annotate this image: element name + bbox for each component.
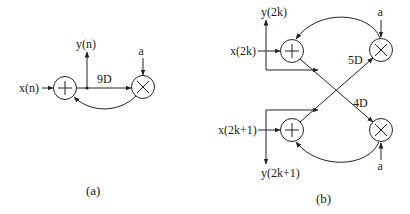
delay-label-9d: 9D (97, 72, 112, 86)
top-feedback-path (296, 17, 380, 39)
delay-label-4d: 4D (353, 96, 368, 110)
bottom-feedback-path (296, 142, 379, 162)
coefficient-label-top-a: a (378, 5, 384, 19)
output-label-y2k1: y(2k+1) (261, 166, 300, 180)
input-label-xn: x(n) (19, 81, 39, 95)
diagram-a: x(n) y(n) 9D a (a) (19, 37, 155, 198)
caption-a: (a) (86, 183, 100, 198)
output-label-yn: y(n) (76, 37, 96, 51)
feedback-path (74, 96, 136, 109)
coefficient-label-bottom-a: a (378, 159, 384, 173)
delay-label-5d: 5D (348, 53, 363, 67)
coefficient-label-a: a (139, 44, 145, 58)
output-label-y2k: y(2k) (261, 5, 287, 19)
diagram-canvas: x(n) y(n) 9D a (a) x (0, 0, 410, 214)
input-label-x2k: x(2k) (230, 44, 256, 58)
diagram-b: x(2k) y(2k) a x(2k+1) y(2k+1) (218, 5, 393, 206)
caption-b: (b) (316, 191, 331, 206)
multiplier-node (132, 76, 155, 99)
input-label-x2k1: x(2k+1) (218, 123, 257, 137)
adder-node (54, 77, 77, 100)
